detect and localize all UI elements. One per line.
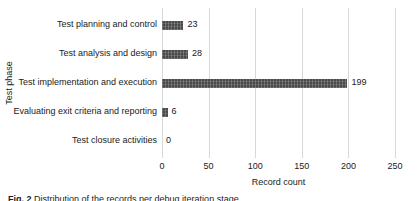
- x-tick-label: 50: [204, 160, 214, 172]
- bar-row: Test implementation and execution199: [162, 69, 395, 98]
- category-label: Test closure activities: [72, 134, 157, 146]
- bar-chart-figure: Test phase Test planning and control23Te…: [0, 0, 417, 201]
- figure-caption: Fig. 2 Distribution of the records per d…: [8, 193, 409, 201]
- bar: [162, 79, 347, 88]
- bar-row: Test closure activities0: [162, 127, 395, 156]
- bar-row: Test planning and control23: [162, 11, 395, 40]
- category-label: Test analysis and design: [59, 47, 157, 59]
- figure-caption-text: Distribution of the records per debug it…: [34, 194, 239, 201]
- figure-caption-prefix: Fig. 2: [8, 194, 32, 201]
- x-axis-title: Record count: [162, 176, 395, 188]
- category-label: Test implementation and execution: [18, 76, 157, 88]
- x-tick-label: 200: [341, 160, 356, 172]
- x-tick-label: 150: [294, 160, 309, 172]
- bar-row: Evaluating exit criteria and reporting6: [162, 98, 395, 127]
- x-tick-label: 0: [159, 160, 164, 172]
- category-label: Evaluating exit criteria and reporting: [13, 105, 157, 117]
- x-tick-label: 100: [248, 160, 263, 172]
- gridline-250: [395, 8, 396, 158]
- bar: [162, 108, 168, 117]
- y-axis-title: Test phase: [2, 8, 16, 158]
- bar-row: Test analysis and design28: [162, 40, 395, 69]
- x-axis-tick-labels: 050100150200250: [162, 160, 395, 172]
- plot-area: Test planning and control23Test analysis…: [162, 8, 395, 158]
- bar: [162, 50, 188, 59]
- bar-value-label: 0: [166, 134, 171, 146]
- bar-value-label: 23: [187, 18, 197, 30]
- bar-value-label: 6: [172, 105, 177, 117]
- y-axis-title-label: Test phase: [3, 61, 15, 105]
- bar-value-label: 199: [351, 76, 366, 88]
- category-label: Test planning and control: [57, 18, 157, 30]
- x-tick-label: 250: [387, 160, 402, 172]
- bar-value-label: 28: [192, 47, 202, 59]
- bar: [162, 21, 183, 30]
